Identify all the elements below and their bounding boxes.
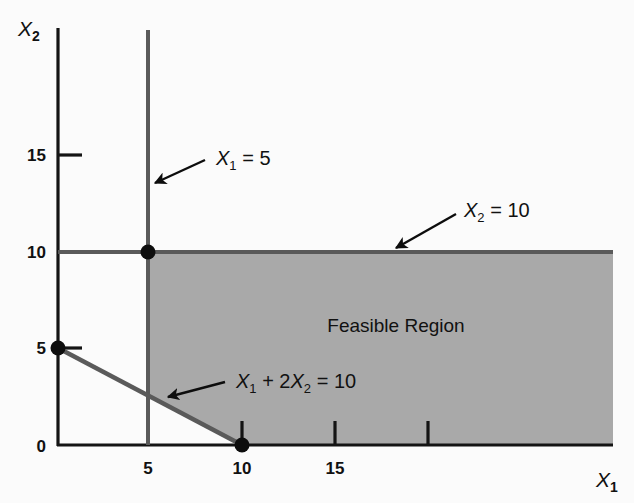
y-tick-label-0: 0 [37,437,46,456]
y-axis-label: X2 [17,17,40,44]
y-tick-label-15: 15 [27,146,46,165]
feasible-region-label: Feasible Region [327,315,464,336]
x-axis-label: X1 [595,468,618,495]
x-tick-label-5: 5 [143,459,152,478]
vertex-point-5-10 [141,245,156,260]
annotation-x1-equals-5: X1 = 5 [215,147,271,173]
arrow-to-x1-constraint [155,160,205,183]
y-tick-label-10: 10 [27,243,46,262]
feasible-region-shading [148,252,613,445]
arrow-to-x2-constraint [396,214,456,248]
annotation-x2-equals-10: X2 = 10 [463,199,530,225]
vertex-point-0-5 [51,341,66,356]
vertex-point-10-0 [235,438,250,453]
x-tick-label-15: 15 [326,459,345,478]
feasible-region-figure: X2 X1 15 10 5 0 5 10 15 X1 = 5 X2 = 10 X… [0,0,634,503]
y-tick-label-5: 5 [37,339,46,358]
x-tick-label-10: 10 [233,459,252,478]
